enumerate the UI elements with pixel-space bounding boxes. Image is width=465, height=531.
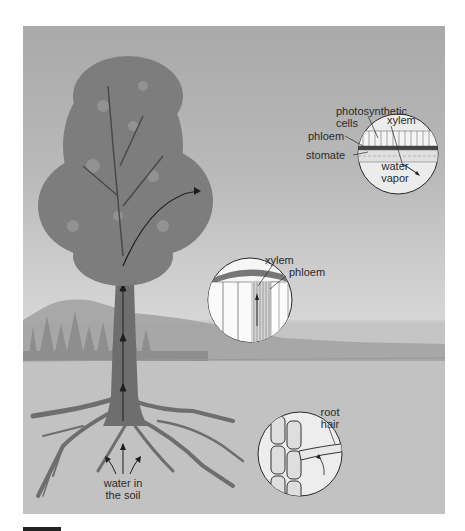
foliage xyxy=(38,56,213,286)
label-trunk-phloem: phloem xyxy=(289,266,325,278)
label-water-vapor-line1: water xyxy=(374,160,416,172)
label-stomate: stomate xyxy=(306,149,345,161)
label-water-in-soil-line1: water in xyxy=(97,477,149,489)
ground xyxy=(23,361,445,514)
label-root-hair-line1: root xyxy=(316,406,344,418)
label-water-vapor-line2: vapor xyxy=(374,172,416,184)
label-trunk-xylem: xylem xyxy=(265,254,294,266)
label-water-in-soil-line2: the soil xyxy=(97,489,149,501)
label-water-in-soil: water in the soil xyxy=(97,477,149,501)
label-leaf-xylem: xylem xyxy=(387,114,416,126)
diagram-panel: photosynthetic cells xylem phloem stomat… xyxy=(23,26,445,514)
label-water-vapor: water vapor xyxy=(374,160,416,184)
label-root-hair-line2: hair xyxy=(316,418,344,430)
label-leaf-phloem: phloem xyxy=(308,130,344,142)
decorative-bar xyxy=(23,527,61,531)
label-root-hair: root hair xyxy=(316,406,344,430)
diagram-illustration xyxy=(23,26,445,514)
